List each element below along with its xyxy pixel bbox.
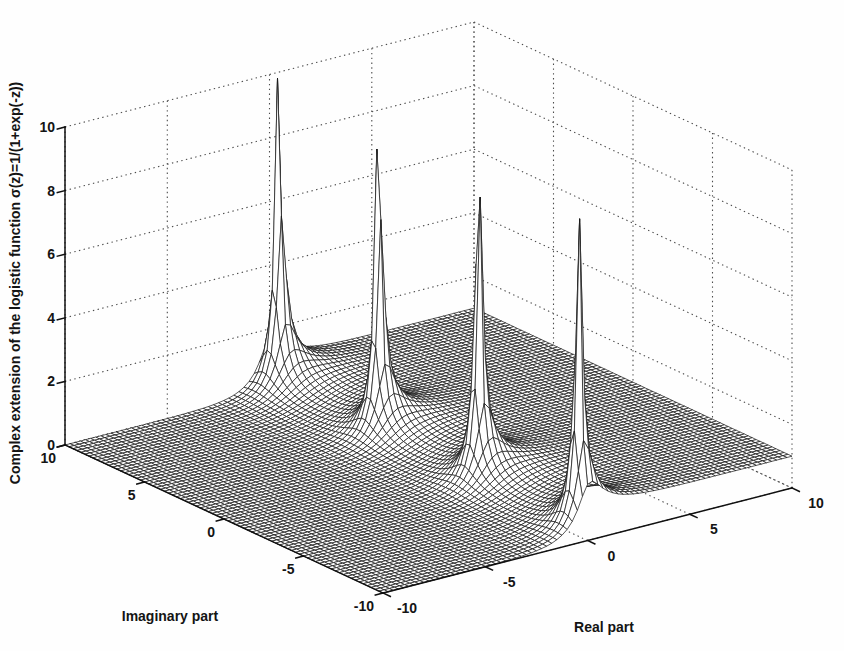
x-tick-label: 5 — [710, 521, 718, 537]
surface-plot-canvas: -10-50510-10-505100246810 Real part Imag… — [0, 0, 844, 651]
x-axis-label: Real part — [574, 619, 634, 635]
y-tick-label: -10 — [354, 598, 374, 614]
z-tick-label: 8 — [47, 183, 55, 199]
figure-page: -10-50510-10-505100246810 Real part Imag… — [0, 0, 844, 651]
x-tick-label: 10 — [808, 495, 824, 511]
x-tick-label: -10 — [397, 600, 417, 616]
y-tick-label: 5 — [128, 487, 136, 503]
z-axis-label: Complex extension of the logistic functi… — [7, 82, 23, 484]
z-tick-label: 0 — [47, 437, 55, 453]
y-tick-label: -5 — [282, 561, 295, 577]
z-tick-label: 2 — [47, 373, 55, 389]
y-axis-label: Imaginary part — [122, 608, 219, 624]
x-tick-label: 0 — [608, 548, 616, 564]
z-tick-label: 6 — [47, 246, 55, 262]
z-tick-label: 4 — [47, 310, 55, 326]
x-tick-label: -5 — [503, 574, 516, 590]
y-tick-label: 0 — [207, 524, 215, 540]
z-tick-label: 10 — [39, 119, 55, 135]
